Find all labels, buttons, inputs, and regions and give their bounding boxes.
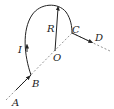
label-I: I: [17, 44, 23, 55]
label-R: R: [46, 23, 55, 34]
incoming-wire-tail: [27, 75, 31, 79]
label-D: D: [94, 32, 103, 43]
label-B: B: [31, 78, 39, 89]
label-A: A: [11, 97, 19, 108]
current-loop-diagram: A B O C D I R: [0, 0, 114, 109]
label-O: O: [53, 52, 61, 63]
radius-line: [55, 8, 58, 51]
label-C: C: [72, 24, 80, 35]
